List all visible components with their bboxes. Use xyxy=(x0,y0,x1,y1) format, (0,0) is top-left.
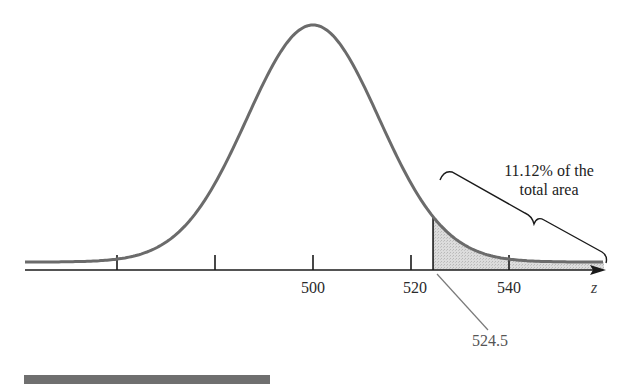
area-callout: 11.12% of the total area xyxy=(484,161,614,199)
normal-curve xyxy=(25,25,603,262)
boundary-value-label: 524.5 xyxy=(472,332,508,350)
tick-label-540: 540 xyxy=(497,279,521,297)
pointer-line-524-5 xyxy=(437,274,488,330)
callout-line-1: 11.12% of the xyxy=(484,161,614,180)
tick-label-500: 500 xyxy=(301,279,325,297)
callout-line-2: total area xyxy=(484,180,614,199)
axis-label-z: z xyxy=(591,279,597,297)
tick-label-520: 520 xyxy=(403,279,427,297)
footer-bar xyxy=(24,375,270,384)
